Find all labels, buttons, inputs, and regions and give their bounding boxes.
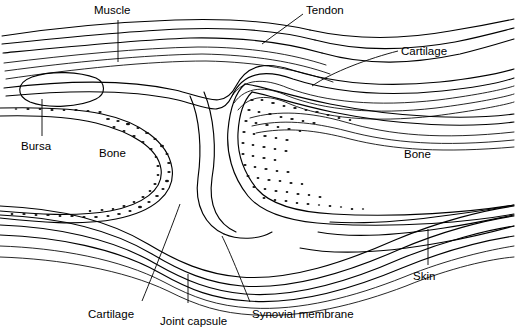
label-bursa: Bursa (21, 140, 52, 152)
label-cartilage-bottom: Cartilage (88, 308, 134, 320)
label-synovial-membrane: Synovial membrane (252, 308, 354, 320)
label-muscle: Muscle (94, 4, 130, 16)
joint-cavity-outline (190, 92, 272, 238)
label-bone-right: Bone (404, 148, 431, 160)
label-cartilage-top: Cartilage (401, 45, 447, 57)
diagram-canvas: Muscle Tendon Cartilage Bursa Bone Bone … (0, 0, 516, 334)
leader-cartilage-bottom (142, 204, 180, 301)
bone-left-shape (0, 108, 172, 223)
label-skin: Skin (413, 270, 435, 282)
leader-tendon (262, 14, 303, 44)
label-joint-capsule: Joint capsule (160, 315, 227, 327)
leader-synovial-membrane (222, 236, 250, 302)
joint-diagram-svg: Muscle Tendon Cartilage Bursa Bone Bone … (0, 0, 516, 334)
bursa-sac (20, 73, 104, 107)
lower-tissue-layers (0, 205, 514, 315)
tendon-fibers (250, 113, 514, 150)
label-bone-left: Bone (99, 147, 126, 159)
bone-right-shape (228, 84, 514, 225)
cartilage-stipple-left (11, 108, 171, 218)
leader-cartilage-top (312, 51, 398, 86)
label-tendon: Tendon (306, 4, 344, 16)
